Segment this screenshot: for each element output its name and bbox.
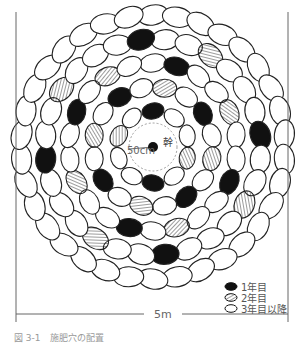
- hatched-ellipse-icon: [224, 293, 238, 302]
- legend-item-year3: 3年目以降: [224, 303, 287, 314]
- year3-hole: [85, 147, 103, 171]
- legend-label: 3年目以降: [241, 301, 287, 316]
- trunk-label: 幹: [163, 138, 173, 148]
- scale-label: 5m: [144, 308, 182, 321]
- inner-radius-label: 50cm: [127, 146, 155, 156]
- legend: 1年目 2年目 3年目以降: [224, 281, 287, 314]
- year3-hole: [226, 145, 246, 172]
- year2-hole: [201, 145, 223, 172]
- figure-caption: 図 3-1 施肥穴の配置: [14, 331, 104, 344]
- year3-hole: [151, 195, 178, 217]
- year3-hole: [178, 124, 196, 148]
- year3-hole: [59, 145, 81, 173]
- year2-hole: [178, 146, 196, 170]
- year3-hole: [138, 51, 167, 74]
- year1-hole: [141, 101, 166, 121]
- year2-hole: [85, 123, 103, 147]
- year3-hole: [138, 219, 167, 242]
- year2-hole: [153, 79, 177, 97]
- empty-ellipse-icon: [224, 304, 238, 313]
- year3-hole: [226, 121, 246, 148]
- year1-hole: [141, 173, 166, 193]
- filled-ellipse-icon: [224, 282, 238, 291]
